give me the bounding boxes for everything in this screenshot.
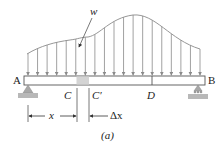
beam [24, 76, 205, 85]
load-curve [27, 15, 200, 54]
dimension-label-x: x [48, 109, 54, 121]
beam-element-dx [77, 77, 90, 85]
point-label-c: C [64, 89, 72, 101]
point-label-d: D [146, 89, 155, 101]
point-label-a: A [13, 74, 21, 86]
pin-support-a [18, 85, 38, 98]
roller-support-b [188, 85, 208, 99]
beam-diagram: w A B C C′ D x Δx (a) [0, 0, 222, 153]
figure-caption: (a) [101, 129, 114, 142]
dimension-label-dx: Δx [110, 109, 123, 121]
point-label-c-prime: C′ [92, 89, 102, 101]
load-label-w: w [90, 5, 98, 17]
load-arrows [28, 15, 200, 75]
point-label-b: B [208, 74, 215, 86]
